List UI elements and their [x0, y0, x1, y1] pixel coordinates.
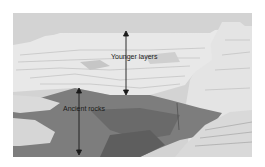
- younger-layers-label: Younger layers: [110, 53, 158, 60]
- grand-canyon-illustration: [13, 13, 252, 157]
- ancient-rocks-label: Ancient rocks: [62, 105, 106, 112]
- canyon-drawing: [13, 13, 252, 157]
